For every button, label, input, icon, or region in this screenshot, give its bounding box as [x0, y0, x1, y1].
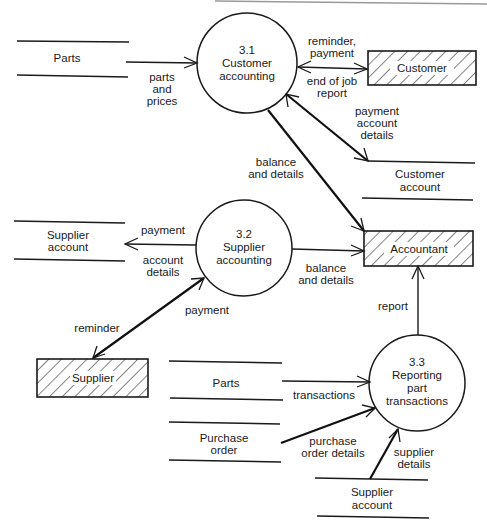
store-label-line2: account	[48, 241, 89, 253]
svg-text:prices: prices	[147, 95, 178, 107]
svg-text:report: report	[317, 87, 348, 99]
page-edge-line	[215, 1, 487, 4]
entity-accountant[interactable]: Accountant	[364, 231, 473, 266]
flow-supplier-exchange[interactable]: payment reminder	[74, 278, 230, 358]
svg-text:and: and	[152, 83, 171, 95]
store-purchase-order[interactable]: Purchase order	[169, 422, 281, 462]
store-label: Parts	[54, 52, 81, 64]
store-label-line2: account	[400, 181, 441, 193]
process-label-line2: accounting	[216, 254, 272, 266]
svg-text:account: account	[143, 254, 184, 266]
process-label-line1: Reporting	[392, 369, 442, 381]
process-number: 3.3	[409, 356, 425, 368]
store-supplier-account-bottom[interactable]: Supplier account	[315, 478, 429, 518]
store-label-line1: Purchase	[200, 432, 249, 444]
flow-payment-account-details[interactable]: payment account details	[286, 94, 400, 161]
process-3-2[interactable]: 3.2 Supplier accounting	[196, 200, 292, 296]
store-parts-top[interactable]: Parts	[17, 41, 129, 77]
process-number: 3.2	[236, 228, 252, 240]
process-label-line2: accounting	[219, 70, 275, 82]
svg-text:payment: payment	[310, 47, 355, 59]
process-label-line2: part	[407, 382, 428, 394]
svg-text:reminder,: reminder,	[308, 35, 356, 47]
store-label-line2: order	[211, 444, 238, 456]
store-label: Parts	[213, 377, 240, 389]
svg-text:balance: balance	[256, 156, 296, 168]
store-label-line1: Supplier	[47, 229, 89, 241]
svg-text:details: details	[146, 266, 179, 278]
svg-text:payment: payment	[355, 105, 400, 117]
entity-label: Accountant	[390, 243, 448, 255]
svg-text:details: details	[360, 129, 393, 141]
store-label-line2: account	[352, 499, 393, 511]
svg-text:details: details	[397, 458, 430, 470]
store-label-line1: Supplier	[351, 486, 393, 498]
flow-balance-details-3-2[interactable]: balance and details	[292, 245, 364, 286]
svg-text:transactions: transactions	[293, 389, 355, 401]
flow-supplier-details[interactable]: supplier details	[370, 429, 434, 479]
svg-text:payment: payment	[141, 224, 186, 236]
svg-text:payment: payment	[185, 304, 230, 316]
store-label-line1: Customer	[395, 168, 445, 180]
svg-text:and details: and details	[298, 274, 354, 286]
flow-parts-and-prices[interactable]: parts and prices	[126, 57, 197, 107]
entity-customer[interactable]: Customer	[368, 51, 476, 85]
data-flow-diagram: 3.1 Customer accounting 3.2 Supplier acc…	[0, 0, 487, 530]
process-label-line1: Customer	[222, 57, 272, 69]
svg-text:balance: balance	[306, 262, 346, 274]
process-label-line1: Supplier	[223, 241, 265, 253]
flow-payment-to-supplier-account[interactable]: payment account details	[125, 224, 196, 278]
process-label-line3: transactions	[386, 395, 448, 407]
svg-text:and details: and details	[248, 168, 304, 180]
svg-text:order details: order details	[301, 447, 365, 459]
process-3-3[interactable]: 3.3 Reporting part transactions	[369, 335, 465, 431]
svg-text:report: report	[378, 300, 409, 312]
svg-text:parts: parts	[149, 71, 175, 83]
process-3-1[interactable]: 3.1 Customer accounting	[197, 13, 297, 113]
svg-text:end of job: end of job	[307, 75, 358, 87]
entity-label: Customer	[397, 62, 447, 74]
svg-text:purchase: purchase	[309, 435, 356, 447]
svg-text:reminder: reminder	[74, 322, 120, 334]
entity-label: Supplier	[72, 372, 114, 384]
flow-customer-exchange[interactable]: reminder, payment end of job report	[298, 35, 367, 99]
svg-text:account: account	[357, 117, 398, 129]
store-customer-account[interactable]: Customer account	[362, 161, 475, 200]
flow-transactions[interactable]: transactions	[282, 376, 370, 401]
store-supplier-account-left[interactable]: Supplier account	[14, 221, 125, 261]
process-number: 3.1	[239, 44, 255, 56]
svg-text:supplier: supplier	[394, 446, 434, 458]
store-parts-bottom[interactable]: Parts	[169, 361, 283, 400]
flow-report[interactable]: report	[378, 266, 424, 335]
flow-purchase-order-details[interactable]: purchase order details	[281, 405, 375, 459]
entity-supplier[interactable]: Supplier	[37, 359, 148, 397]
